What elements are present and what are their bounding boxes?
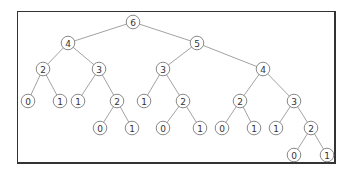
tree-node: 2 [36,62,50,76]
node-label: 2 [180,97,186,107]
tree-node: 1 [137,94,151,108]
node-label: 1 [57,97,63,107]
node-label: 4 [65,39,71,49]
tree-node: 1 [71,94,85,108]
tree-node: 0 [93,121,107,135]
tree-node: 4 [61,36,75,50]
tree-node: 2 [176,94,190,108]
tree-node: 6 [126,15,140,29]
node-label: 2 [237,97,243,107]
node-label: 2 [114,97,120,107]
node-label: 5 [194,39,200,49]
tree-node: 1 [125,121,139,135]
node-label: 2 [40,65,46,75]
node-label: 1 [324,151,330,161]
tree-node: 4 [256,62,270,76]
tree-node: 1 [269,121,283,135]
node-label: 3 [160,65,166,75]
tree-node: 1 [320,148,334,162]
tree-node: 2 [233,94,247,108]
tree-edge [68,22,133,43]
tree-node: 0 [287,148,301,162]
node-label: 0 [97,124,103,134]
node-label: 2 [308,124,314,134]
node-label: 6 [130,18,136,28]
node-label: 0 [160,124,166,134]
tree-edge [197,43,263,69]
node-label: 1 [197,124,203,134]
node-label: 0 [219,124,225,134]
tree-node: 1 [53,94,67,108]
node-label: 3 [96,65,102,75]
node-label: 3 [291,97,297,107]
node-label: 1 [251,124,257,134]
tree-nodes: 6452334011212230101011201 [21,15,334,162]
node-label: 4 [260,65,266,75]
tree-node: 0 [21,94,35,108]
tree-node: 0 [156,121,170,135]
tree-node: 3 [156,62,170,76]
tree-node: 3 [92,62,106,76]
node-label: 1 [75,97,81,107]
node-label: 1 [141,97,147,107]
tree-node: 3 [287,94,301,108]
node-label: 0 [25,97,31,107]
tree-edge [133,22,197,43]
tree-node: 0 [215,121,229,135]
node-label: 1 [129,124,135,134]
tree-node: 1 [247,121,261,135]
tree-node: 1 [193,121,207,135]
tree-node: 2 [110,94,124,108]
tree-node: 2 [304,121,318,135]
node-label: 1 [273,124,279,134]
node-label: 0 [291,151,297,161]
tree-node: 5 [190,36,204,50]
tree-diagram: 6452334011212230101011201 [0,0,354,177]
